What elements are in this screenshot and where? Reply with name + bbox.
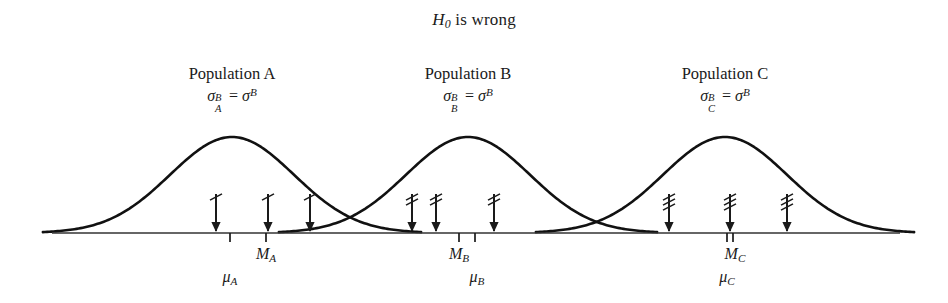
arrow-head — [211, 222, 220, 232]
median-label-b: MB — [449, 245, 469, 264]
sample-arrow-b-3 — [488, 194, 500, 232]
arrow-head — [782, 222, 791, 232]
normal-curves-group — [43, 137, 914, 232]
sample-arrow-a-2 — [262, 194, 274, 232]
median-label-a: MA — [256, 245, 276, 264]
median-label-c: MC — [725, 245, 746, 264]
sample-arrow-a-1 — [210, 194, 222, 232]
normal-curve-a — [43, 137, 421, 232]
axis-ticks-group — [230, 233, 733, 242]
sample-arrow-a-3 — [304, 194, 316, 232]
sample-arrow-b-1 — [406, 194, 418, 232]
mu-label-a: μA — [223, 268, 238, 287]
mu-label-b: μB — [470, 268, 485, 287]
arrow-head — [431, 222, 440, 232]
arrow-head — [263, 222, 272, 232]
sample-arrow-c-2 — [724, 194, 736, 232]
normal-curve-c — [536, 137, 914, 232]
mu-label-c: μC — [719, 268, 735, 287]
figure-canvas: H0 is wrong Population A σBA = σB Popula… — [0, 0, 948, 303]
arrow-head — [664, 222, 673, 232]
sample-arrow-c-3 — [781, 194, 793, 232]
sample-arrow-b-2 — [430, 194, 442, 232]
distribution-plot — [0, 0, 948, 303]
normal-curve-b — [279, 137, 657, 232]
arrow-head — [725, 222, 734, 232]
sample-arrows-group — [210, 194, 793, 232]
arrow-head — [489, 222, 498, 232]
sample-arrow-c-1 — [663, 194, 675, 232]
